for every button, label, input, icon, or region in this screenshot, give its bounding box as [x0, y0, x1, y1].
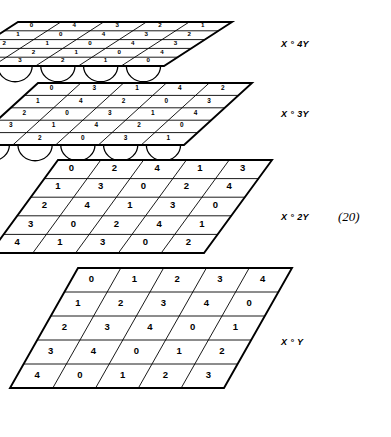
cell-value: 0 [30, 21, 34, 28]
cell-value: 2 [219, 345, 224, 356]
cell-value: 2 [137, 121, 141, 128]
cell-value: 1 [75, 48, 79, 55]
cell-value: 0 [246, 297, 251, 308]
cell-value: 2 [163, 369, 168, 380]
cell-value: 0 [88, 39, 92, 46]
cell-value: 4 [84, 199, 90, 210]
cell-value: 4 [154, 162, 160, 173]
layer-label-x-y: X ° Y [281, 337, 303, 347]
cell-value: 3 [174, 39, 178, 46]
cell-value: 0 [134, 345, 139, 356]
cell-value: 2 [112, 162, 117, 173]
layer-label-x-3y: X ° 3Y [281, 109, 309, 119]
cell-value: 4 [14, 236, 20, 247]
cell-value: 3 [240, 162, 245, 173]
cell-value: 1 [197, 162, 203, 173]
cell-value: 3 [48, 345, 53, 356]
support-arc [126, 66, 160, 82]
cell-value: 1 [55, 180, 61, 191]
cell-value: 1 [75, 297, 81, 308]
cell-value: 3 [145, 30, 149, 37]
cell-value: 4 [102, 30, 106, 37]
cell-value: 2 [122, 97, 126, 104]
cell-value: 0 [117, 48, 121, 55]
cell-value: 3 [18, 56, 22, 63]
layer-label-x-2y: X ° 2Y [281, 212, 309, 222]
cell-value: 0 [89, 273, 94, 284]
cell-value: 1 [45, 39, 49, 46]
cell-value: 0 [81, 134, 85, 141]
cell-value: 0 [143, 236, 148, 247]
cell-value: 0 [77, 369, 82, 380]
cell-value: 0 [180, 121, 184, 128]
cell-value: 1 [176, 345, 182, 356]
grid-layer-x-3y: 0314214203203143142042031 [0, 83, 252, 161]
cell-value: 4 [156, 218, 162, 229]
layer-label-x-4y: X ° 4Y [281, 39, 309, 49]
cell-value: 0 [213, 199, 218, 210]
cell-value: 3 [161, 297, 166, 308]
cell-value: 3 [108, 109, 112, 116]
support-arc [0, 66, 32, 82]
cell-value: 3 [98, 180, 103, 191]
cell-value: 0 [65, 109, 69, 116]
cell-value: 4 [147, 321, 153, 332]
cell-value: 4 [91, 345, 97, 356]
equation-number: (20) [338, 209, 360, 225]
cell-value: 2 [32, 48, 36, 55]
cell-value: 1 [201, 21, 205, 28]
cell-value: 1 [199, 218, 205, 229]
cell-value: 3 [9, 121, 13, 128]
cell-value: 2 [174, 273, 179, 284]
cell-value: 3 [100, 236, 105, 247]
cell-value: 2 [221, 84, 225, 91]
cell-value: 2 [187, 30, 191, 37]
support-arc [84, 66, 118, 82]
cell-value: 1 [167, 134, 171, 141]
cell-value: 3 [115, 21, 119, 28]
cell-value: 2 [118, 297, 123, 308]
cell-value: 2 [186, 236, 191, 247]
cell-value: 3 [28, 218, 33, 229]
cell-value: 4 [131, 39, 135, 46]
cell-value: 1 [132, 273, 138, 284]
cell-value: 2 [42, 199, 47, 210]
cell-value: 0 [71, 218, 76, 229]
cell-value: 2 [184, 180, 189, 191]
cell-value: 3 [207, 97, 211, 104]
grid-layer-x-4y: 0432110432210433210443210 [0, 21, 232, 82]
cell-value: 2 [158, 21, 162, 28]
support-arc [18, 145, 52, 161]
grid-layer-x-2y: 0241313024241303024141302 [0, 160, 272, 253]
cell-value: 4 [226, 180, 232, 191]
cell-value: 4 [204, 297, 210, 308]
cell-value: 1 [57, 236, 63, 247]
cell-value: 1 [52, 121, 56, 128]
support-arc [104, 145, 138, 161]
cell-value: 2 [62, 321, 67, 332]
cell-value: 1 [135, 84, 139, 91]
cell-value: 0 [59, 30, 63, 37]
cell-value: 3 [93, 84, 97, 91]
cell-value: 3 [170, 199, 175, 210]
cell-value: 4 [73, 21, 77, 28]
cell-value: 0 [190, 321, 195, 332]
cell-value: 1 [151, 109, 155, 116]
cell-value: 1 [36, 97, 40, 104]
cell-value: 2 [38, 134, 42, 141]
cell-value: 1 [127, 199, 133, 210]
cell-value: 4 [79, 97, 83, 104]
cell-value: 4 [194, 109, 198, 116]
cell-value: 0 [69, 162, 74, 173]
support-arcs [0, 145, 181, 161]
cayley-table-figure: 0432110432210433210443210031421420320314… [0, 0, 391, 437]
cell-value: 4 [178, 84, 182, 91]
cell-value: 1 [104, 56, 108, 63]
support-arc [41, 66, 75, 82]
support-arc [61, 145, 95, 161]
cell-value: 0 [165, 97, 169, 104]
support-arc [146, 145, 180, 161]
cell-value: 4 [95, 121, 99, 128]
cell-value: 1 [16, 30, 20, 37]
layers-group: 0432110432210433210443210031421420320314… [0, 21, 292, 388]
